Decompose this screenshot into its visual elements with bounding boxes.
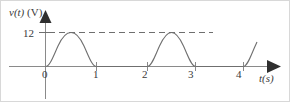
y-axis-title-unit: (V) bbox=[27, 6, 42, 18]
waveform-pulse-1 bbox=[46, 33, 97, 67]
x-axis-title-unit: (s) bbox=[262, 72, 274, 84]
x-axis-title: t(s) bbox=[259, 73, 274, 84]
x-tick-label-2: 2 bbox=[142, 69, 148, 80]
x-tick-label-0: 0 bbox=[42, 69, 48, 80]
y-tick-label-12: 12 bbox=[23, 28, 34, 39]
y-axis-title: v(t) (V) bbox=[9, 7, 42, 18]
x-tick-label-4: 4 bbox=[236, 69, 242, 80]
plot-canvas bbox=[1, 1, 290, 102]
waveform-pulse-3-partial bbox=[244, 42, 258, 67]
x-tick-label-1: 1 bbox=[93, 69, 99, 80]
y-axis-title-arg: (t) bbox=[14, 6, 24, 18]
x-tick-label-3: 3 bbox=[188, 69, 194, 80]
waveform-figure: v(t) (V) t(s) 12 0 1 2 3 4 bbox=[0, 0, 290, 102]
waveform-pulse-2 bbox=[148, 33, 196, 67]
